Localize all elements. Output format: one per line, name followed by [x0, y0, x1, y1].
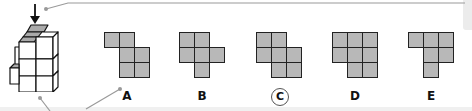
- grid-cell: [347, 32, 363, 48]
- grid-cell: [271, 62, 287, 78]
- grid-cell: [104, 32, 120, 48]
- grid-cell: [362, 32, 378, 48]
- option-label-e[interactable]: E: [423, 89, 439, 103]
- grid-cell: [332, 47, 348, 63]
- grid-cell: [209, 47, 225, 63]
- grid-cell: [332, 32, 348, 48]
- option-label-d[interactable]: D: [347, 89, 363, 103]
- grid-cell: [179, 32, 195, 48]
- grid-cell: [408, 32, 424, 48]
- grid-cell: [194, 62, 210, 78]
- grid-cell: [438, 47, 454, 63]
- option-label-a[interactable]: A: [119, 89, 135, 103]
- grid-cell: [134, 47, 150, 63]
- grid-cell: [271, 32, 287, 48]
- grid-cell: [256, 32, 272, 48]
- grid-cell: [119, 32, 135, 48]
- grid-cell: [119, 47, 135, 63]
- grid-cell: [194, 32, 210, 48]
- grid-cell: [423, 32, 439, 48]
- grid-cell: [119, 62, 135, 78]
- grid-cell: [256, 47, 272, 63]
- option-label-c[interactable]: C: [271, 88, 289, 106]
- grid-cell: [423, 62, 439, 78]
- option-label-b[interactable]: B: [194, 89, 210, 103]
- grid-cell: [438, 32, 454, 48]
- grid-cell: [362, 62, 378, 78]
- grid-cell: [347, 62, 363, 78]
- grid-cell: [271, 47, 287, 63]
- grid-cell: [286, 47, 302, 63]
- grid-cell: [134, 62, 150, 78]
- grid-cell: [423, 47, 439, 63]
- grid-cell: [286, 62, 302, 78]
- grid-cell: [347, 47, 363, 63]
- grid-cell: [194, 47, 210, 63]
- connector-lines: [0, 0, 472, 111]
- grid-cell: [362, 47, 378, 63]
- cube-stack-figure: [4, 22, 62, 92]
- grid-cell: [179, 47, 195, 63]
